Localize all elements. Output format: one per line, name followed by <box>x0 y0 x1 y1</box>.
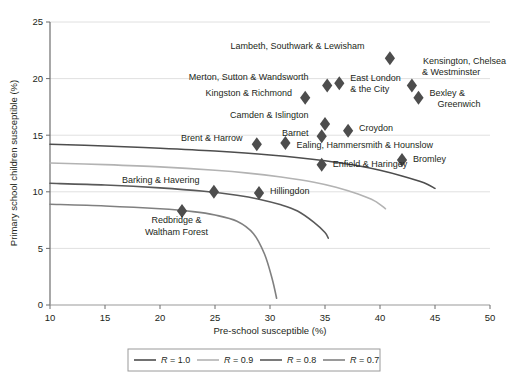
legend-label: R = 0.7 <box>350 355 379 365</box>
legend: R = 1.0R = 0.9R = 0.8R = 0.7 <box>128 349 380 371</box>
x-tick-label: 30 <box>265 312 276 323</box>
point-label: Redbridge &Waltham Forest <box>145 215 209 237</box>
point-label: Enfield & Haringey <box>333 159 408 169</box>
data-point-marker <box>322 78 332 92</box>
y-tick-label: 15 <box>32 130 43 141</box>
data-point-marker <box>300 91 310 105</box>
x-tick-label: 40 <box>375 312 386 323</box>
x-tick-label: 20 <box>155 312 166 323</box>
y-tick-label: 25 <box>32 16 43 27</box>
point-label: Bromley <box>413 154 447 164</box>
curve-r-0-9 <box>50 163 386 209</box>
data-point-marker <box>320 117 330 131</box>
point-label: Kingston & Richmond <box>205 88 292 98</box>
chart-container: 0510152025101520253035404550 Lambeth, So… <box>0 0 508 380</box>
x-tick-label: 15 <box>100 312 111 323</box>
data-point-marker <box>252 137 262 151</box>
y-tick-label: 20 <box>32 73 43 84</box>
y-axis-title: Primary school children susceptible (%) <box>8 80 19 246</box>
point-label: Merton, Sutton & Wandsworth <box>189 72 309 82</box>
x-axis-title: Pre-school susceptible (%) <box>214 325 327 336</box>
point-label: Brent & Harrow <box>181 133 243 143</box>
point-label: Lambeth, Southwark & Lewisham <box>231 41 365 51</box>
x-tick-label: 10 <box>45 312 56 323</box>
point-label: Kensington, Chelsea& Westminster <box>422 56 506 78</box>
y-tick-label: 10 <box>32 186 43 197</box>
scatter-chart: 0510152025101520253035404550 Lambeth, So… <box>0 0 508 380</box>
point-label: Barking & Havering <box>122 175 200 185</box>
point-label: Camden & Islington <box>230 110 309 120</box>
point-label: East London& the City <box>350 73 401 95</box>
data-point-marker <box>413 91 423 105</box>
point-label: Bexley &Greenwich <box>430 88 481 110</box>
x-tick-label: 35 <box>320 312 331 323</box>
x-tick-label: 45 <box>430 312 441 323</box>
data-point-marker <box>407 78 417 92</box>
legend-label: R = 0.8 <box>287 355 316 365</box>
y-tick-label: 5 <box>38 243 43 254</box>
x-tick-label: 50 <box>485 312 496 323</box>
x-tick-label: 25 <box>210 312 221 323</box>
point-label: Croydon <box>359 123 393 133</box>
data-point-marker <box>209 185 219 199</box>
legend-label: R = 0.9 <box>224 355 253 365</box>
legend-label: R = 1.0 <box>161 355 190 365</box>
data-point-marker <box>385 51 395 65</box>
point-label: Barnet <box>282 128 309 138</box>
point-label: Hillingdon <box>270 186 310 196</box>
point-label: Ealing, Hammersmith & Hounslow <box>296 140 433 150</box>
y-tick-label: 0 <box>38 299 43 310</box>
